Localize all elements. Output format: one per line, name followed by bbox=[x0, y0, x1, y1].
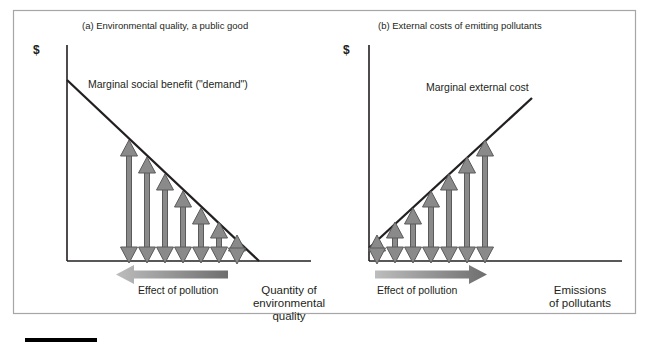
panel-a-title: (a) Environmental quality, a public good bbox=[82, 20, 248, 31]
panel-b-curve-label: Marginal external cost bbox=[426, 81, 529, 93]
panel-b-y-axis-label: $ bbox=[343, 43, 350, 57]
panel-a-y-axis-label: $ bbox=[33, 43, 40, 57]
panel-b-x-axis-label-line1: Emissions bbox=[554, 284, 607, 296]
panel-b-title: (b) External costs of emitting pollutant… bbox=[378, 20, 542, 31]
panel-a-x-axis-label-line2: environmental bbox=[253, 297, 325, 309]
figure-container: (a) Environmental quality, a public good… bbox=[0, 0, 649, 349]
panel-b-effect-label: Effect of pollution bbox=[377, 284, 458, 296]
panel-a-effect-label: Effect of pollution bbox=[138, 284, 219, 296]
panel-a-curve-label: Marginal social benefit ("demand") bbox=[88, 78, 248, 90]
panel-b-x-axis-label-line2: of pollutants bbox=[549, 297, 611, 309]
bottom-rule bbox=[25, 338, 97, 342]
economics-diagram: (a) Environmental quality, a public good… bbox=[0, 0, 649, 349]
panel-a-x-axis-label-line3: quality bbox=[272, 310, 305, 322]
panel-a-x-axis-label-line1: Quantity of bbox=[261, 284, 317, 296]
